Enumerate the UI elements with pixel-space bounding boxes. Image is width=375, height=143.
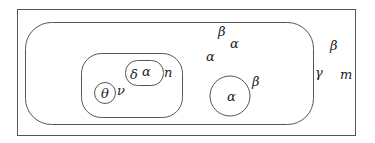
- inner-rounded-region: [82, 54, 183, 118]
- label-pill-delta: δ: [130, 67, 138, 82]
- label-pill-alpha: α: [142, 64, 151, 79]
- label-right-circle-alpha: α: [227, 89, 236, 104]
- label-theta: θ: [101, 86, 109, 101]
- label-inner-nu: ν: [117, 83, 125, 98]
- label-big-alpha-left: α: [206, 49, 215, 64]
- label-outer-gamma: γ: [315, 65, 323, 80]
- nested-set-diagram: β γ m β α α n ν δ α θ α β: [0, 0, 375, 143]
- label-big-alpha-top: α: [230, 36, 239, 51]
- label-inner-n: n: [164, 65, 172, 80]
- label-outer-m: m: [340, 67, 352, 82]
- label-right-circle-beta: β: [251, 74, 260, 89]
- label-big-beta-top: β: [217, 24, 226, 39]
- label-outer-beta: β: [329, 38, 338, 53]
- outer-frame: [18, 10, 356, 136]
